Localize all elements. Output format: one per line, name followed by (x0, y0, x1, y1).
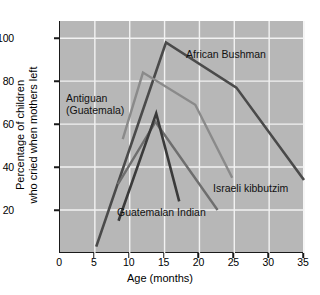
series-label-antiguan: Antiguan(Guatemala) (66, 92, 124, 116)
y-tick-label: 20 (0, 204, 14, 216)
x-tick-mark (128, 253, 130, 258)
y-tick-mark (54, 209, 59, 211)
plot-area (59, 21, 303, 253)
y-tick-label: 80 (0, 75, 14, 87)
series-label-israeli-kibbutzim: Israeli kibbutzim (213, 182, 288, 194)
y-tick-mark (54, 123, 59, 125)
y-tick-label: 40 (0, 161, 14, 173)
x-tick-mark (302, 253, 304, 258)
x-tick-mark (163, 253, 165, 258)
series-label-guatemalan-indian: Guatemalan Indian (117, 206, 206, 218)
series-label-african-bushman: African Bushman (186, 48, 266, 60)
y-tick-mark (54, 80, 59, 82)
x-axis-title: Age (months) (0, 272, 320, 284)
y-axis-title-line1: Percentage of children (14, 80, 26, 190)
x-tick-mark (198, 253, 200, 258)
x-tick-mark (267, 253, 269, 258)
x-tick-mark (93, 253, 95, 258)
series-label-antiguan-line2: (Guatemala) (66, 104, 124, 116)
series-label-antiguan-line1: Antiguan (66, 92, 107, 104)
x-tick-mark (233, 253, 235, 258)
y-tick-mark (54, 37, 59, 39)
y-tick-label: 100 (0, 32, 14, 44)
y-axis-title-line2: who cried when mothers left (27, 67, 39, 204)
y-axis-title: Percentage of childrenwho cried when mot… (14, 25, 40, 245)
y-tick-mark (54, 166, 59, 168)
series-line-israeli-kibbutzim (118, 122, 218, 210)
x-tick-label: 0 (44, 256, 74, 268)
series-lines (60, 21, 304, 253)
y-tick-label: 60 (0, 118, 14, 130)
chart-figure: 2040608010005101520253035 Age (months) P… (0, 0, 320, 295)
